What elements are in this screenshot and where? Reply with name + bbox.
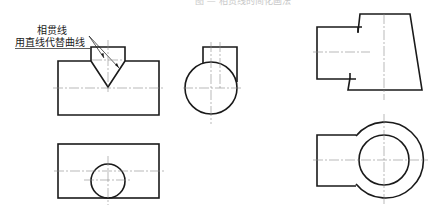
- top-view-ring: [313, 114, 428, 205]
- leader-line-2: [89, 36, 119, 68]
- top-view-rect-circle: [54, 144, 166, 205]
- leader-arrowhead-2: [115, 63, 119, 68]
- front-view-vee: [53, 40, 165, 115]
- annotation-straight-line-substitute: 用直线代替曲线: [15, 36, 85, 48]
- annotation-intersection-line: 相贯线: [37, 24, 67, 36]
- side-view-circle: [183, 42, 243, 124]
- front-view-trapezoid: [313, 14, 422, 100]
- technical-drawing: 图 — 相贯线的简化画法 相贯线 用直线代替曲线: [0, 0, 440, 213]
- figure-caption: 图 — 相贯线的简化画法: [195, 0, 291, 6]
